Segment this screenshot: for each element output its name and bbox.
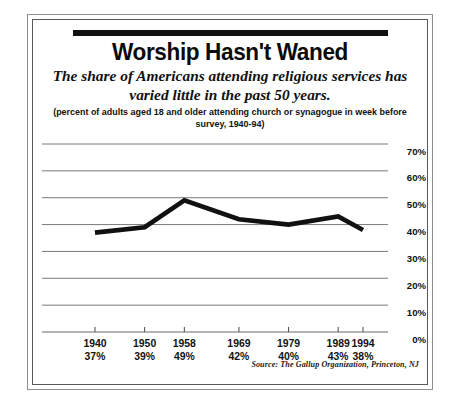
y-axis-label: 20% <box>392 280 426 291</box>
x-axis-year-label: 1979 <box>267 337 311 350</box>
x-axis-year-label: 1969 <box>217 337 261 350</box>
y-axis-label: 30% <box>392 253 426 264</box>
x-axis-tick-group: 195849% <box>162 337 206 364</box>
data-point-value-label: 39% <box>123 350 167 364</box>
chart-area: 0%10%20%30%40%50%60%70% 194037%195039%19… <box>33 20 427 384</box>
x-axis-year-label: 1940 <box>73 337 117 350</box>
y-axis-label: 40% <box>392 226 426 237</box>
x-axis-year-label: 1950 <box>123 337 167 350</box>
y-axis-label: 70% <box>392 146 426 157</box>
infographic-root: Worship Hasn't Waned The share of Americ… <box>0 0 459 414</box>
y-axis-label: 10% <box>392 307 426 318</box>
data-point-value-label: 37% <box>73 350 117 364</box>
y-axis-label: 50% <box>392 199 426 210</box>
x-axis-year-label: 1994 <box>341 337 385 350</box>
x-axis-tick-group: 194037% <box>73 337 117 364</box>
figure-content: Worship Hasn't Waned The share of Americ… <box>33 20 427 384</box>
data-point-value-label: 49% <box>162 350 206 364</box>
x-axis-year-label: 1958 <box>162 337 206 350</box>
line-chart-svg <box>33 20 427 384</box>
source-note: Source: The Gallup Organization, Princet… <box>251 360 419 369</box>
data-line <box>95 200 363 232</box>
y-axis-label: 0% <box>392 334 426 345</box>
y-axis-label: 60% <box>392 172 426 183</box>
x-axis-tick-group: 195039% <box>123 337 167 364</box>
